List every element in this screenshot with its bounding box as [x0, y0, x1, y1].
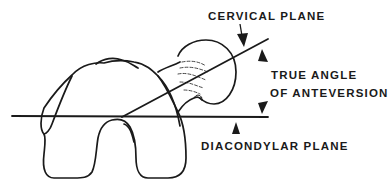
angle-arrow-up-icon	[258, 49, 268, 62]
femur-condyles-outline	[41, 58, 186, 178]
diacondylar-plane-label: DIACONDYLAR PLANE	[201, 141, 349, 153]
cervical-plane-label: CERVICAL PLANE	[208, 11, 325, 23]
diacondylar-plane-line	[12, 116, 268, 117]
true-angle-label-line2: OF ANTEVERSION	[270, 88, 389, 100]
diacondylar-plane-arrow-icon	[232, 122, 240, 134]
angle-arrow-down-icon	[258, 101, 268, 114]
cervical-plane-arrow-icon	[237, 24, 248, 47]
cervical-plane-line	[122, 39, 268, 117]
true-angle-label-line1: TRUE ANGLE	[271, 70, 357, 82]
